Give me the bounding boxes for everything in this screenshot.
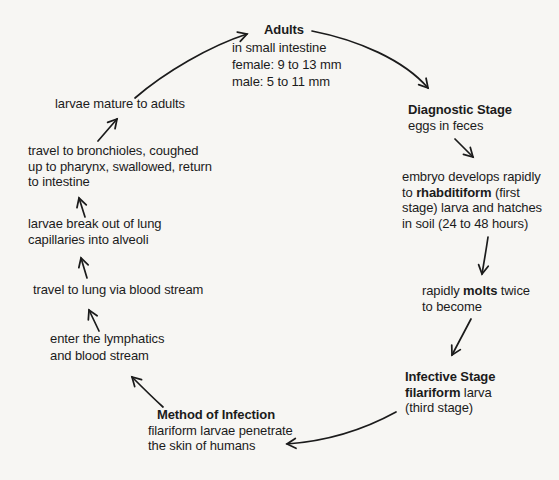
diagram-text-line: to intestine (28, 174, 212, 190)
diagram-text-line: enter the lymphatics (50, 331, 164, 348)
arrow-method-to-lymphatics (132, 377, 163, 407)
lifecycle-diagram: Adultsin small intestinefemale: 9 to 13 … (0, 0, 559, 480)
arrow-diagnostic-to-embryo (455, 139, 473, 157)
arrow-embryo-to-molts (482, 237, 488, 274)
diagram-text-line: in soil (24 to 48 hours) (402, 216, 542, 232)
diagram-text-line: stage) larva and hatches (402, 200, 542, 216)
diagram-text-line: travel to bronchioles, coughed (28, 143, 212, 159)
diagram-text-line: to become (422, 299, 530, 315)
arrow-bronchioles-to-mature (98, 119, 117, 141)
node-break-into-alveoli: larvae break out of lungcapillaries into… (28, 216, 161, 248)
diagram-text-line: rapidly molts twice (422, 283, 530, 299)
arrow-infective-to-method (287, 412, 396, 444)
node-travel-to-bronchioles: travel to bronchioles, coughedup to phar… (28, 143, 212, 190)
diagram-text-line: to rhabditiform (first (402, 185, 542, 201)
diagram-text-line: in small intestine (232, 39, 341, 56)
node-adults: Adultsin small intestinefemale: 9 to 13 … (232, 21, 341, 90)
arrow-mature-to-adults (135, 34, 247, 98)
node-method-of-infection: Method of Infectionfilariform larvae pen… (148, 407, 293, 454)
diagram-text-line: eggs in feces (408, 118, 512, 134)
diagram-text-line: filariform larvae penetrate (148, 423, 293, 439)
diagram-text-line: the skin of humans (148, 438, 293, 454)
diagram-text-line: embryo develops rapidly (402, 169, 542, 185)
node-molts-twice: rapidly molts twiceto become (422, 283, 530, 315)
diagram-text-line: up to pharynx, swallowed, return (28, 159, 212, 175)
diagram-text-line: larvae break out of lung (28, 216, 161, 232)
arrow-lymphatics-to-lung (89, 310, 99, 331)
diagram-text-line: male: 5 to 11 mm (232, 73, 341, 90)
node-embryo-develops: embryo develops rapidlyto rhabditiform (… (402, 169, 542, 231)
arrow-lung-to-alveoli (81, 258, 87, 278)
diagram-text-line: capillaries into alveoli (28, 232, 161, 248)
node-infective-stage: Infective Stagefilariform larva(third st… (405, 369, 495, 416)
diagram-text-line: Adults (232, 21, 341, 38)
diagram-text-line: Infective Stage (405, 369, 495, 385)
diagram-text-line: female: 9 to 13 mm (232, 56, 341, 73)
diagram-text-line: filariform larva (405, 385, 495, 401)
diagram-text-line: Diagnostic Stage (408, 102, 512, 118)
diagram-text-line: travel to lung via blood stream (33, 282, 203, 298)
node-larvae-mature: larvae mature to adults (55, 96, 185, 112)
diagram-text-line: larvae mature to adults (55, 96, 185, 112)
node-enter-lymphatics: enter the lymphaticsand blood stream (50, 331, 164, 364)
diagram-text-line: and blood stream (50, 348, 164, 365)
node-travel-to-lung: travel to lung via blood stream (33, 282, 203, 298)
diagram-text-line: Method of Infection (148, 407, 293, 423)
node-diagnostic-stage: Diagnostic Stageeggs in feces (408, 102, 512, 134)
diagram-text-line: (third stage) (405, 400, 495, 416)
arrow-alveoli-to-bronchioles (79, 198, 85, 217)
arrow-molts-to-infective (452, 319, 471, 355)
